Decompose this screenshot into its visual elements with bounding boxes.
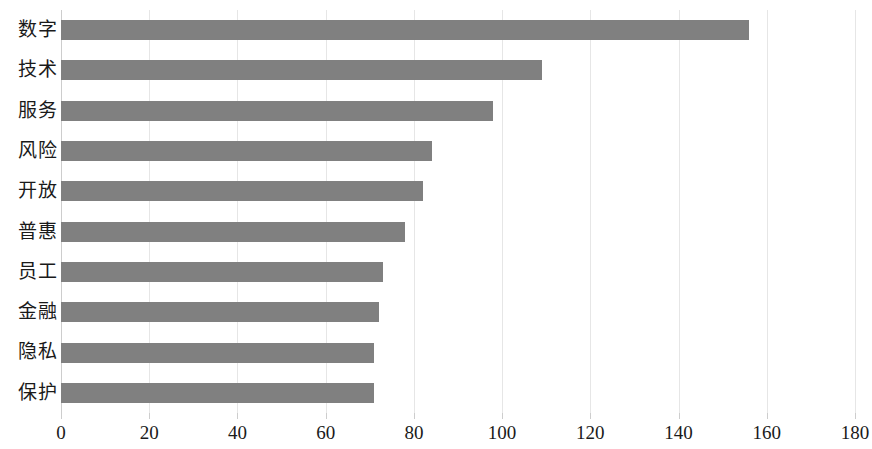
- tick-mark-20: [149, 413, 150, 419]
- x-axis-label-100: 100: [488, 420, 517, 446]
- x-axis-tick-marks: [61, 413, 855, 420]
- tick-mark-180: [855, 413, 856, 419]
- category-label-保护: 保护: [18, 373, 58, 413]
- x-axis-label-0: 0: [56, 420, 66, 446]
- bar-row: [61, 332, 855, 372]
- bar-row: [61, 131, 855, 171]
- bar-技术: [61, 60, 542, 80]
- x-axis-label-40: 40: [228, 420, 247, 446]
- category-label-技术: 技术: [18, 50, 58, 90]
- x-axis-label-60: 60: [316, 420, 335, 446]
- bar-服务: [61, 101, 493, 121]
- category-label-数字: 数字: [18, 10, 58, 50]
- tick-mark-160: [767, 413, 768, 419]
- x-axis-label-20: 20: [140, 420, 159, 446]
- tick-mark-80: [414, 413, 415, 419]
- category-label-风险: 风险: [18, 131, 58, 171]
- category-label-开放: 开放: [18, 171, 58, 211]
- x-axis-label-140: 140: [664, 420, 693, 446]
- x-axis-label-120: 120: [576, 420, 605, 446]
- bar-row: [61, 292, 855, 332]
- bar-隐私: [61, 343, 374, 363]
- tick-mark-140: [679, 413, 680, 419]
- bar-row: [61, 171, 855, 211]
- bar-金融: [61, 302, 379, 322]
- bar-保护: [61, 383, 374, 403]
- category-label-金融: 金融: [18, 292, 58, 332]
- bar-风险: [61, 141, 432, 161]
- bar-row: [61, 212, 855, 252]
- category-axis-labels: 数字技术服务风险开放普惠员工金融隐私保护: [0, 10, 58, 413]
- bar-普惠: [61, 222, 405, 242]
- bar-row: [61, 252, 855, 292]
- plot-area: [61, 10, 855, 413]
- category-label-服务: 服务: [18, 91, 58, 131]
- x-axis-tick-labels: 020406080100120140160180: [0, 420, 872, 449]
- bar-row: [61, 91, 855, 131]
- bar-row: [61, 50, 855, 90]
- gridline-180: [855, 10, 856, 413]
- bar-row: [61, 373, 855, 413]
- bar-员工: [61, 262, 383, 282]
- x-axis-label-80: 80: [404, 420, 423, 446]
- tick-mark-0: [61, 413, 62, 419]
- bar-chart: 数字技术服务风险开放普惠员工金融隐私保护 0204060801001201401…: [0, 0, 872, 449]
- bar-开放: [61, 181, 423, 201]
- tick-mark-40: [237, 413, 238, 419]
- category-label-隐私: 隐私: [18, 332, 58, 372]
- bar-数字: [61, 20, 749, 40]
- tick-mark-120: [590, 413, 591, 419]
- tick-mark-100: [502, 413, 503, 419]
- category-label-员工: 员工: [18, 252, 58, 292]
- bar-row: [61, 10, 855, 50]
- x-axis-label-160: 160: [753, 420, 782, 446]
- tick-mark-60: [326, 413, 327, 419]
- category-label-普惠: 普惠: [18, 212, 58, 252]
- x-axis-label-180: 180: [841, 420, 870, 446]
